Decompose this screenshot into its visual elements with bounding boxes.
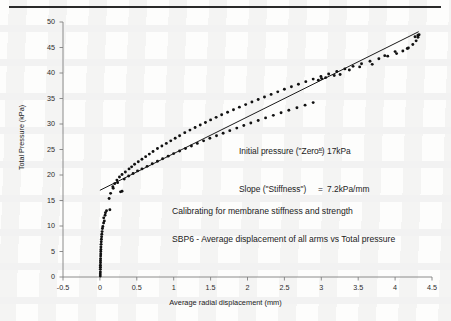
y-tick-label: 0 xyxy=(29,272,55,281)
data-point xyxy=(151,162,154,165)
data-point xyxy=(184,147,187,150)
data-point xyxy=(343,67,346,70)
data-point xyxy=(295,106,298,109)
data-point xyxy=(327,73,330,76)
data-point xyxy=(304,104,307,107)
caption-line-2: SBP6 - Average displacement of all arms … xyxy=(172,234,395,244)
data-point xyxy=(116,181,119,184)
data-point xyxy=(105,209,108,212)
y-tick-label: 40 xyxy=(29,68,55,77)
data-point xyxy=(280,111,283,114)
data-point xyxy=(169,139,172,142)
data-point xyxy=(100,233,103,236)
data-point xyxy=(238,106,241,109)
y-tick-label: 25 xyxy=(29,145,55,154)
data-point xyxy=(99,270,102,273)
data-point xyxy=(100,240,103,243)
data-point xyxy=(226,111,229,114)
data-point xyxy=(283,88,286,91)
data-point xyxy=(174,137,177,140)
x-axis-title: Average radial displacement (mm) xyxy=(0,298,451,307)
data-point xyxy=(383,54,386,57)
y-tick-label: 10 xyxy=(29,221,55,230)
slope-row: Slope ("Stiffness") = 7.2kPa/mm xyxy=(239,183,369,196)
data-point xyxy=(178,150,181,153)
data-point xyxy=(196,142,199,145)
data-point xyxy=(401,50,404,53)
data-point xyxy=(102,216,105,219)
slope-value: 7.2kPa/mm xyxy=(327,183,369,196)
data-point xyxy=(101,225,104,228)
x-tick-label: -0.5 xyxy=(43,283,83,292)
data-point xyxy=(99,257,102,260)
data-point xyxy=(202,139,205,142)
y-tick-label: 20 xyxy=(29,170,55,179)
initial-pressure-equals: = xyxy=(318,145,327,158)
data-point xyxy=(109,192,112,195)
data-point xyxy=(136,169,139,172)
x-tick-label: 3 xyxy=(301,283,341,292)
x-tick-label: 4 xyxy=(375,283,415,292)
data-point xyxy=(113,182,116,185)
data-point xyxy=(156,160,159,163)
data-point xyxy=(101,230,104,233)
data-point xyxy=(358,65,361,68)
initial-pressure-row: Initial pressure ("Zero") = 17kPa xyxy=(239,145,369,158)
data-point xyxy=(324,76,327,79)
data-point xyxy=(250,101,253,104)
data-point xyxy=(312,101,315,104)
data-point xyxy=(371,63,374,66)
data-point xyxy=(270,93,273,96)
data-point xyxy=(272,114,275,117)
y-tick-label: 15 xyxy=(29,196,55,205)
data-point xyxy=(103,219,106,222)
x-tick-label: 0 xyxy=(80,283,120,292)
data-point xyxy=(121,190,124,193)
initial-pressure-label: Initial pressure ("Zero") xyxy=(239,145,318,158)
x-tick-label: 1 xyxy=(154,283,194,292)
data-point xyxy=(165,142,168,145)
data-point xyxy=(141,158,144,161)
series-initial-vertical-loading xyxy=(99,209,108,277)
data-point xyxy=(352,65,355,68)
scatter-plot-canvas xyxy=(0,0,451,321)
caption-line-1: Calibrating for membrane stiffness and s… xyxy=(172,206,353,216)
y-tick-label: 5 xyxy=(29,247,55,256)
data-point xyxy=(121,173,124,176)
y-tick-label: 50 xyxy=(29,17,55,26)
y-tick-label: 45 xyxy=(29,43,55,52)
data-point xyxy=(127,175,130,178)
data-point xyxy=(99,245,102,248)
data-point xyxy=(130,165,133,168)
data-point xyxy=(232,108,235,111)
data-point xyxy=(183,131,186,134)
data-point xyxy=(264,116,267,119)
data-point xyxy=(215,134,218,137)
data-point xyxy=(100,235,103,238)
data-point xyxy=(161,157,164,160)
data-point xyxy=(208,137,211,140)
data-point xyxy=(146,165,149,168)
data-point xyxy=(257,98,260,101)
data-point xyxy=(263,96,266,99)
data-point xyxy=(137,160,140,163)
data-point xyxy=(377,57,380,60)
data-point xyxy=(100,243,103,246)
data-point xyxy=(204,121,207,124)
data-point xyxy=(333,74,336,77)
data-point xyxy=(160,144,163,147)
data-point xyxy=(235,127,238,130)
data-point xyxy=(320,77,323,80)
data-point xyxy=(190,144,193,147)
data-point xyxy=(414,35,417,38)
data-point xyxy=(290,85,293,88)
data-point xyxy=(141,167,144,170)
data-point xyxy=(152,150,155,153)
slope-label: Slope ("Stiffness") xyxy=(239,183,318,196)
data-point xyxy=(415,39,418,42)
data-point xyxy=(112,187,115,190)
data-point xyxy=(123,178,126,181)
data-point xyxy=(199,124,202,127)
data-point xyxy=(99,248,102,251)
figure-page: Initial pressure ("Zero") = 17kPa Slope … xyxy=(0,0,451,321)
